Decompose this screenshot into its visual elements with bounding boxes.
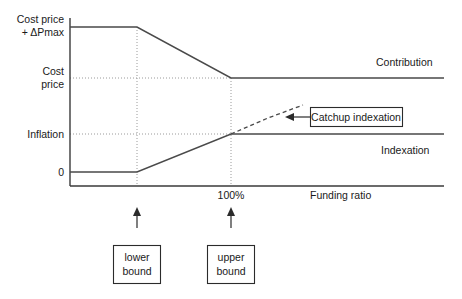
x-axis-title: Funding ratio <box>310 189 371 201</box>
lower-bound-label-line1: lower <box>124 251 150 263</box>
y-tick-label-zero: 0 <box>58 166 64 178</box>
y-tick-label-cost-price-line1: Cost <box>42 65 64 77</box>
lower-bound-arrowhead <box>133 207 141 216</box>
x-tick-label-100-percent: 100% <box>218 189 245 201</box>
chart-svg: Cost price + ΔPmax Cost price Inflation … <box>0 0 462 299</box>
y-tick-label-inflation: Inflation <box>27 128 64 140</box>
upper-bound-label-line1: upper <box>218 251 245 263</box>
series-line-contribution <box>70 27 444 78</box>
y-tick-label-cost-price-pmax-line2: + ΔPmax <box>22 26 65 38</box>
lower-bound-label-line2: bound <box>122 265 151 277</box>
upper-bound-label-line2: bound <box>216 265 245 277</box>
upper-bound-arrowhead <box>227 207 235 216</box>
y-tick-label-cost-price-line2: price <box>41 78 64 90</box>
catchup-callout-label: Catchup indexation <box>311 111 401 123</box>
chart-figure: Cost price + ΔPmax Cost price Inflation … <box>0 0 462 299</box>
catchup-callout-arrowhead <box>285 113 294 121</box>
y-tick-label-cost-price-pmax-line1: Cost price <box>17 13 64 25</box>
series-label-indexation: Indexation <box>381 144 430 156</box>
series-label-contribution: Contribution <box>376 56 433 68</box>
